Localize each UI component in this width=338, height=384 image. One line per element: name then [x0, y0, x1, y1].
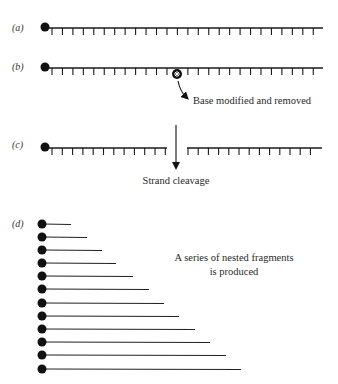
panel-label-c: (c): [12, 139, 24, 151]
end-label-dot-icon: [41, 63, 50, 72]
panel-label-b: (b): [12, 61, 24, 73]
fragment-line: [43, 237, 87, 238]
end-label-dot-icon: [38, 325, 47, 334]
end-label-dot-icon: [38, 246, 47, 255]
annotation-base-modified: Base modified and removed: [193, 95, 312, 106]
fragment-line: [43, 369, 241, 370]
fragment-line: [43, 289, 149, 290]
annotation-strand-cleavage: Strand cleavage: [143, 175, 210, 186]
end-label-dot-icon: [38, 220, 47, 229]
end-label-dot-icon: [38, 312, 47, 321]
fragment-line: [43, 263, 116, 264]
panel-label-d: (d): [12, 218, 24, 230]
fragment-line: [43, 329, 195, 330]
end-label-dot-icon: [38, 351, 47, 360]
fragment-line: [43, 276, 133, 277]
fragment-line: [43, 224, 71, 225]
fragment-line: [43, 342, 210, 343]
end-label-dot-icon: [38, 259, 47, 268]
end-label-dot-icon: [38, 299, 47, 308]
fragment-line: [43, 303, 164, 304]
end-label-dot-icon: [41, 23, 50, 32]
curved-arrow-icon: [178, 81, 186, 97]
panel-label-a: (a): [12, 22, 24, 34]
end-label-dot-icon: [38, 272, 47, 281]
annotation-nested-line1: A series of nested fragments: [175, 252, 294, 263]
modified-base-icon: [172, 69, 182, 79]
end-label-dot-icon: [38, 233, 47, 242]
fragment-line: [43, 316, 179, 317]
panel-a-intact-strand: [41, 23, 324, 36]
fragment-line: [43, 250, 102, 251]
sequencing-diagram: (a) (b) (c) (d) Base modified and remove…: [0, 0, 338, 384]
end-label-dot-icon: [38, 338, 47, 347]
end-label-dot-icon: [41, 143, 50, 152]
annotation-nested-line2: is produced: [210, 266, 259, 277]
end-label-dot-icon: [38, 285, 47, 294]
panel-d-nested-fragments: [38, 220, 242, 374]
end-label-dot-icon: [38, 365, 47, 374]
fragment-line: [43, 355, 226, 356]
panel-c-cleaved-strand: [41, 143, 323, 156]
